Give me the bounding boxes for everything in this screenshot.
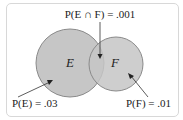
- venn-diagram: E F P(E ∩ F) = .001 P(E) = .03 P(F) = .0…: [0, 0, 183, 120]
- intersection-probability-label: P(E ∩ F) = .001: [65, 8, 136, 21]
- set-e-label: E: [65, 55, 74, 70]
- set-f-probability-label: P(F) = .01: [126, 97, 171, 110]
- set-e-probability-label: P(E) = .03: [12, 97, 58, 110]
- set-f-arrow: [131, 76, 148, 97]
- set-e-arrow: [18, 82, 50, 97]
- set-f-label: F: [110, 55, 120, 70]
